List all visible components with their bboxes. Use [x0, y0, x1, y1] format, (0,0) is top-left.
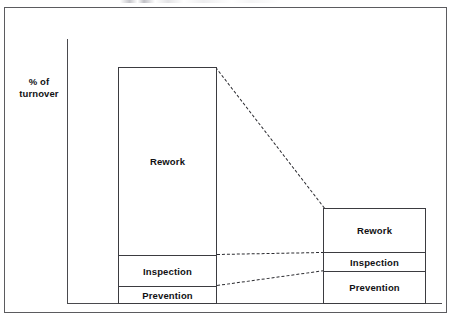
y-axis-label-line2: turnover: [15, 88, 63, 100]
connector-rework-inspection-line: [217, 252, 324, 255]
figure-frame: % of turnover Rework Inspection Preventi…: [4, 7, 447, 313]
clipped-caption-remnant: [120, 0, 280, 3]
bar-after-segment-inspection-label: Inspection: [350, 257, 399, 268]
connector-top-of-bar: [215, 67, 325, 208]
bar-before-segment-prevention-label: Prevention: [142, 290, 193, 301]
y-axis-label-line1: % of: [15, 76, 63, 88]
bar-before-segment-rework: Rework: [119, 68, 216, 255]
bar-before: Rework Inspection Prevention: [118, 67, 217, 304]
connector-inspection-prevention-line: [217, 270, 324, 286]
bar-after-segment-prevention-label: Prevention: [349, 282, 400, 293]
bar-after: Rework Inspection Prevention: [323, 208, 426, 304]
bar-after-segment-rework-label: Rework: [357, 225, 392, 236]
bar-before-segment-rework-label: Rework: [150, 156, 185, 167]
y-axis-label: % of turnover: [15, 76, 63, 100]
bar-after-segment-rework: Rework: [324, 209, 425, 252]
bar-before-segment-prevention: Prevention: [119, 286, 216, 303]
y-axis-line: [67, 39, 68, 304]
bar-after-segment-inspection: Inspection: [324, 252, 425, 271]
bar-after-segment-prevention: Prevention: [324, 271, 425, 303]
quality-cost-figure: % of turnover Rework Inspection Preventi…: [0, 0, 452, 324]
bar-before-segment-inspection: Inspection: [119, 255, 216, 286]
bar-before-segment-inspection-label: Inspection: [143, 266, 192, 277]
